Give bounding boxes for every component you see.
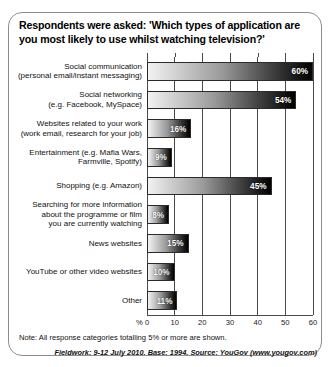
bar-value-label: 45% bbox=[250, 182, 266, 191]
bar-row: 45% bbox=[147, 177, 313, 196]
bar-value-label: 8% bbox=[152, 210, 164, 219]
category-label-line: (personal email/instant messaging) bbox=[10, 71, 142, 81]
category-label: YouTube or other video websites bbox=[10, 267, 142, 277]
x-axis-tick-label: 0 bbox=[145, 318, 149, 327]
bar: 11% bbox=[147, 291, 177, 310]
axis-tick bbox=[313, 53, 314, 57]
bar-row: 11% bbox=[147, 291, 313, 310]
bar: 15% bbox=[147, 234, 189, 253]
category-label: Searching for more informationabout the … bbox=[10, 200, 142, 229]
category-label-line: YouTube or other video websites bbox=[10, 267, 142, 277]
bar: 54% bbox=[147, 91, 296, 110]
category-label: Shopping (e.g. Amazon) bbox=[10, 181, 142, 191]
bar-value-label: 60% bbox=[292, 67, 308, 76]
x-axis-tick-label: 40 bbox=[253, 318, 261, 327]
bar-row: 16% bbox=[147, 119, 313, 138]
axis-tick bbox=[175, 53, 176, 57]
category-label-line: News websites bbox=[10, 239, 142, 249]
category-label: Other bbox=[10, 296, 142, 306]
x-axis-tick-label: 30 bbox=[226, 318, 234, 327]
category-label-line: Entertainment (e.g. Mafia Wars, bbox=[10, 148, 142, 158]
bar: 45% bbox=[147, 177, 272, 196]
bar-value-label: 10% bbox=[153, 268, 169, 277]
category-label-line: (work email, research for your job) bbox=[10, 129, 142, 139]
bar-row: 15% bbox=[147, 234, 313, 253]
category-label: Entertainment (e.g. Mafia Wars,Farmville… bbox=[10, 148, 142, 167]
category-label-line: Shopping (e.g. Amazon) bbox=[10, 181, 142, 191]
x-axis-tick-label: 60 bbox=[309, 318, 317, 327]
footnote-note: Note: All response categories totalling … bbox=[19, 333, 227, 342]
category-label-line: Social networking bbox=[10, 90, 142, 100]
bar-row: 9% bbox=[147, 148, 313, 167]
x-axis-tick-label: 20 bbox=[198, 318, 206, 327]
category-label: Social networking(e.g. Facebook, MySpace… bbox=[10, 90, 142, 109]
category-label-column: Social communication(personal email/inst… bbox=[8, 57, 142, 315]
bar: 9% bbox=[147, 148, 172, 167]
bar-value-label: 54% bbox=[275, 96, 291, 105]
category-label-line: Social communication bbox=[10, 62, 142, 72]
bar-row: 60% bbox=[147, 62, 313, 81]
category-label-line: Other bbox=[10, 296, 142, 306]
axis-tick bbox=[147, 53, 148, 57]
category-label-line: Searching for more information bbox=[10, 200, 142, 210]
category-label-line: Farmville, Spotify) bbox=[10, 157, 142, 167]
footnote-source: Fieldwork: 9-12 July 2010. Base: 1994. S… bbox=[54, 348, 317, 357]
category-label-line: you are currently watching bbox=[10, 219, 142, 229]
axis-tick bbox=[258, 53, 259, 57]
x-axis-tick-label: 10 bbox=[170, 318, 178, 327]
figure-container: Respondents were asked: 'Which types of … bbox=[0, 0, 331, 367]
bar-value-label: 9% bbox=[155, 153, 167, 162]
bar: 10% bbox=[147, 263, 175, 282]
bar-row: 10% bbox=[147, 263, 313, 282]
axis-tick bbox=[202, 53, 203, 57]
bar: 60% bbox=[147, 62, 313, 81]
axis-tick bbox=[230, 53, 231, 57]
bar-value-label: 16% bbox=[170, 124, 186, 133]
bar-value-label: 11% bbox=[156, 296, 172, 305]
bar-row: 54% bbox=[147, 91, 313, 110]
page-title: Respondents were asked: 'Which types of … bbox=[19, 19, 309, 46]
category-label-line: about the programme or film bbox=[10, 210, 142, 220]
category-label: News websites bbox=[10, 239, 142, 249]
x-axis-unit-label: % bbox=[136, 318, 143, 327]
bar-chart-plot-area: % 010203040506060%54%16%9%45%8%15%10%11% bbox=[147, 57, 313, 315]
bar: 16% bbox=[147, 119, 191, 138]
bar: 8% bbox=[147, 205, 169, 224]
category-label-line: (e.g. Facebook, MySpace) bbox=[10, 100, 142, 110]
category-label-line: Websites related to your work bbox=[10, 119, 142, 129]
x-axis-line bbox=[147, 315, 313, 316]
bar-row: 8% bbox=[147, 205, 313, 224]
category-label: Websites related to your work(work email… bbox=[10, 119, 142, 138]
bar-value-label: 15% bbox=[167, 239, 183, 248]
category-label: Social communication(personal email/inst… bbox=[10, 62, 142, 81]
axis-tick bbox=[285, 53, 286, 57]
x-axis-tick-label: 50 bbox=[281, 318, 289, 327]
